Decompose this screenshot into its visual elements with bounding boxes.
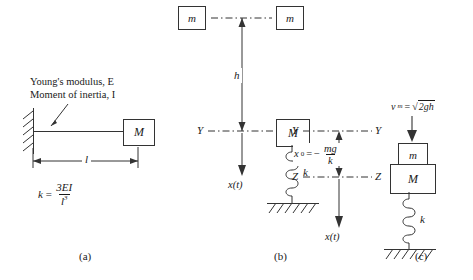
length-label-l: l [82,153,91,166]
dimension-line-l [0,0,175,200]
stiffness-denominator-exponent: 3 [64,194,68,202]
ground-support-c [384,249,436,261]
stiffness-equals: = [45,188,52,201]
stiffness-denominator: l3 [59,194,70,207]
panel-label-c: (c) [415,250,427,262]
panel-a: Young's modulus, E Moment of inertia, I … [0,0,175,280]
spring-c [285,0,473,260]
figure-canvas: Young's modulus, E Moment of inertia, I … [0,0,473,280]
panel-label-a: (a) [79,250,91,262]
panel-c: vm = √ 2gh m M Y Y Z Z [285,0,473,280]
spring-label-k-c: k [420,213,425,226]
stiffness-formula-a: k = 3EI l3 [38,182,74,207]
stiffness-numerator: 3EI [54,182,74,194]
stiffness-lhs: k [38,188,43,201]
